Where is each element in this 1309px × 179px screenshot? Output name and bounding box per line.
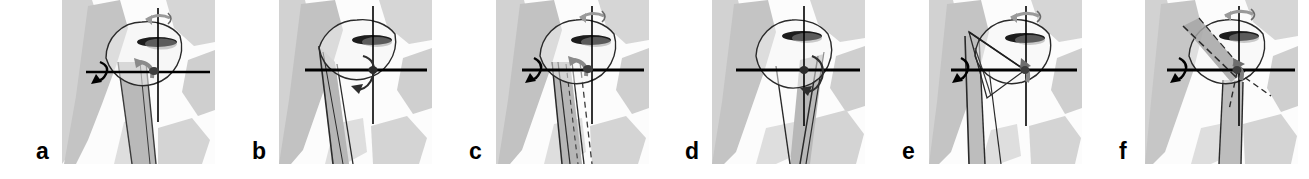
panel-d [712,0,865,164]
panel-d-diagram [712,0,865,164]
panel-b-diagram [279,0,432,164]
panel-b [279,0,432,164]
panel-label-c: c [469,140,482,163]
center-of-rotation-dot [1233,66,1242,74]
panel-a-diagram [62,0,215,164]
center-of-rotation-dot [149,67,159,75]
panel-e-diagram [929,0,1082,164]
panel-label-e: e [902,140,915,163]
glenoid-shadow [1015,35,1045,45]
panel-label-b: b [252,140,266,163]
panel-f-diagram [1145,0,1298,164]
glenoid-shadow [792,33,822,43]
panel-f [1145,0,1298,164]
figure-panel-row: a [0,0,1309,179]
glenoid-shadow [145,39,177,50]
humeral-head-outline [756,20,832,88]
center-of-rotation-dot [800,66,809,74]
center-of-rotation-dot [583,65,593,73]
glenoid-shadow [1229,33,1259,43]
glenoid-shadow [581,37,611,47]
panel-c-diagram [496,0,649,164]
center-of-rotation-dot [369,66,378,74]
glenoid-shadow [362,37,392,47]
center-of-rotation-dot [1021,66,1030,74]
panel-label-d: d [685,140,699,163]
panel-label-a: a [36,140,49,163]
panel-label-f: f [1119,140,1127,163]
panel-c [496,0,649,164]
panel-e [929,0,1082,164]
panel-a [62,0,215,164]
